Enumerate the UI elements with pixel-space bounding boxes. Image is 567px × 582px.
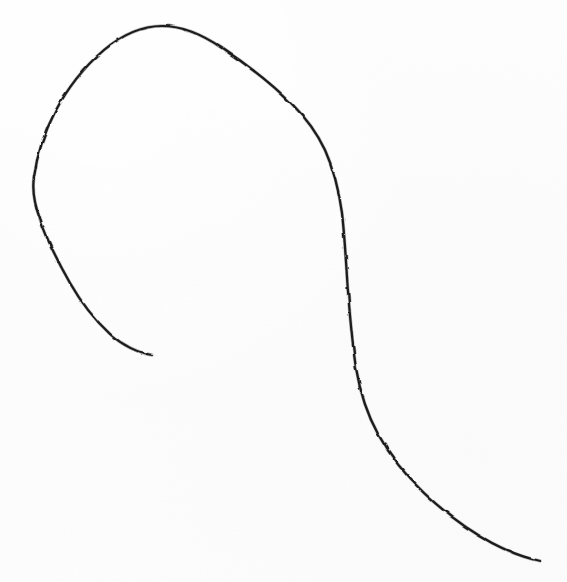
spiral-curve-stroke	[33, 26, 540, 561]
spiral-curve-shadow	[33, 26, 540, 561]
ink-layer	[33, 26, 540, 561]
sketch-canvas	[0, 0, 567, 582]
hand-drawn-curve-figure	[0, 0, 567, 582]
